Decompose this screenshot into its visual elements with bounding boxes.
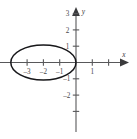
y-tick-label-neg1: –1	[62, 75, 71, 83]
x-axis-label: x	[121, 50, 126, 59]
y-tick-label-neg2: –2	[62, 92, 71, 100]
x-tick-label-pos1: 1	[91, 68, 95, 76]
x-tick-label-neg2: –2	[39, 68, 48, 76]
y-axis-arrow-icon	[72, 7, 80, 16]
y-axis-label: y	[81, 7, 86, 16]
y-tick-label-pos3: 3	[66, 10, 70, 18]
graph-figure: –3 –2 –1 1 3 2 1 –1 –2 x y	[0, 0, 137, 139]
x-axis-arrow-icon	[120, 59, 129, 67]
x-tick-label-neg3: –3	[23, 68, 32, 76]
coordinate-plane-svg: –3 –2 –1 1 3 2 1 –1 –2 x y	[0, 0, 137, 139]
y-tick-label-pos2: 2	[66, 27, 70, 35]
x-tick-label-neg1: –1	[55, 68, 64, 76]
y-tick-label-pos1: 1	[66, 43, 70, 51]
